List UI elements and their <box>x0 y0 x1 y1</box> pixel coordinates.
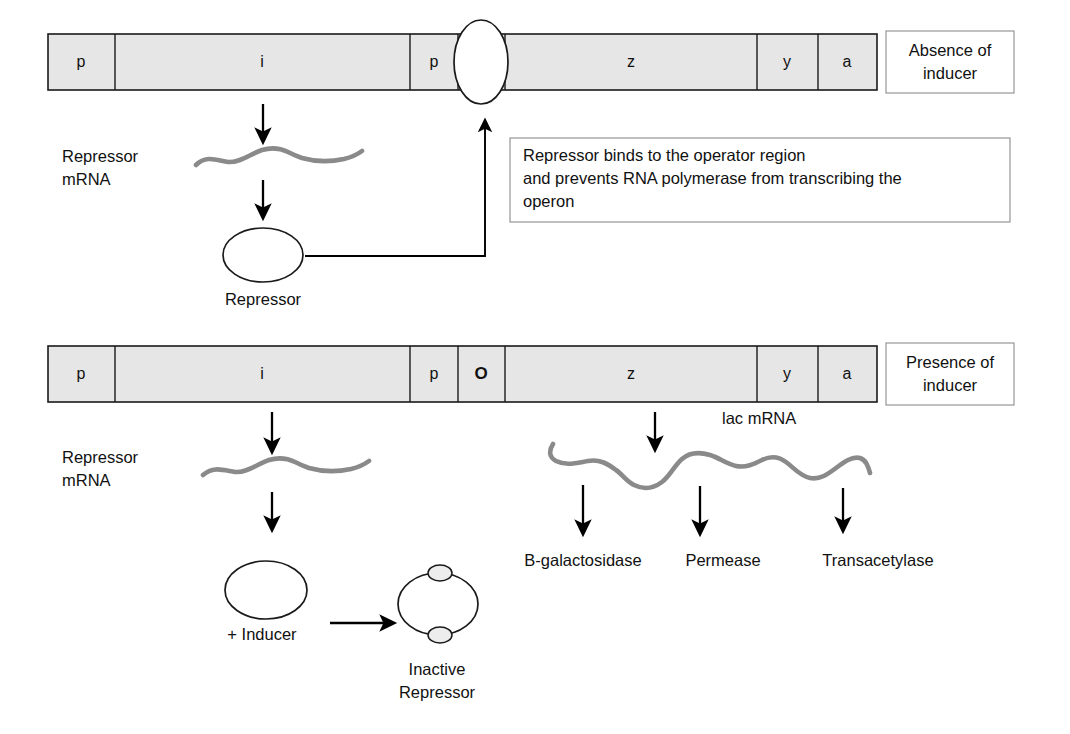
segment-label-promoter-i: p <box>77 53 86 70</box>
repressor-mrna-label-line1: Repressor <box>62 147 139 165</box>
repressor-mrna-label-line2: mRNA <box>62 471 111 489</box>
repressor-protein-shape <box>223 228 303 282</box>
segment-label-gene-i: i <box>260 53 264 70</box>
inactive-repressor-shape <box>398 573 478 635</box>
operon-bar-presence: p i p O z y a <box>48 346 877 402</box>
explanation-line3: operon <box>523 192 574 210</box>
explanation-line1: Repressor binds to the operator region <box>523 146 806 164</box>
segment-label-gene-z: z <box>627 53 635 70</box>
inactive-repressor-label-line2: Repressor <box>399 683 476 701</box>
condition-label-line1: Absence of <box>909 41 992 59</box>
lac-mrna-label: lac mRNA <box>722 409 796 427</box>
panel-presence-of-inducer: p i p O z y a Presence of inducer Repres… <box>48 343 1014 701</box>
repressor-protein-label: Repressor <box>225 290 302 308</box>
bound-repressor-shape <box>454 20 508 104</box>
operon-bar-outline <box>48 346 877 402</box>
segment-label-gene-y: y <box>783 365 791 382</box>
segment-label-gene-y: y <box>783 53 791 70</box>
product-label-permease: Permease <box>685 551 760 569</box>
inducer-lobe-top <box>428 565 452 581</box>
lac-mrna-label-rest: mRNA <box>743 409 796 427</box>
repressor-mrna-label-line1: Repressor <box>62 448 139 466</box>
segment-label-operator: O <box>474 364 487 383</box>
inducer-lobe-bottom <box>428 627 452 643</box>
segment-label-promoter-i: p <box>77 365 86 382</box>
repressor-mrna-strand-absence <box>196 149 362 165</box>
repressor-to-operator-connector <box>305 125 485 256</box>
segment-label-promoter-lac: p <box>430 365 439 382</box>
segment-label-promoter-lac: p <box>430 53 439 70</box>
repressor-mrna-label-line2: mRNA <box>62 170 111 188</box>
explanation-line2: and prevents RNA polymerase from transcr… <box>523 169 902 187</box>
condition-label-absence: Absence of inducer <box>886 31 1014 93</box>
segment-label-gene-z: z <box>627 365 635 382</box>
explanation-callout: Repressor binds to the operator region a… <box>510 138 1010 222</box>
product-label-transacetylase: Transacetylase <box>822 551 933 569</box>
segment-label-gene-a: a <box>843 53 852 70</box>
figure-canvas: p i p z y a Absence of inducer Repressor <box>0 0 1070 734</box>
condition-label-line1: Presence of <box>906 353 994 371</box>
active-repressor-shape <box>225 561 307 619</box>
lac-operon-diagram: p i p z y a Absence of inducer Repressor <box>0 0 1070 734</box>
lac-mrna-label-italic: lac <box>722 409 743 427</box>
inactive-repressor-label-line1: Inactive <box>409 660 466 678</box>
inducer-label: + Inducer <box>227 625 297 643</box>
product-label-b-galactosidase: B-galactosidase <box>524 551 641 569</box>
inactive-repressor-group <box>398 565 478 643</box>
lac-mrna-strand <box>550 444 870 488</box>
panel-absence-of-inducer: p i p z y a Absence of inducer Repressor <box>48 20 1014 308</box>
condition-label-line2: inducer <box>923 64 978 82</box>
segment-label-gene-a: a <box>843 365 852 382</box>
condition-label-presence: Presence of inducer <box>886 343 1014 405</box>
condition-label-line2: inducer <box>923 376 978 394</box>
segment-label-gene-i: i <box>260 365 264 382</box>
repressor-mrna-strand-presence <box>203 459 369 475</box>
